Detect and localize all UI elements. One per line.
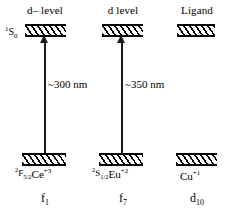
ground-state-label-eu2: 2S1/2Eu+2 [92, 167, 128, 180]
excited-level-caption-eu2: d level [84, 4, 162, 16]
excited-term-symbol-ce3: 1S0 [5, 26, 18, 37]
energy-column-eu2: d level ~350 nm 2S1/2Eu+2 f7 [84, 0, 162, 215]
ground-level-bar-eu2 [99, 153, 143, 166]
ground-state-label-cu1: Cu+1 [180, 170, 200, 182]
ground-level-bar-ce3 [22, 153, 66, 166]
ground-term-j-ce3: 5/2 [23, 173, 31, 180]
ground-level-bar-cu1 [176, 153, 217, 166]
ground-term-symbol-eu2: 2S1/2 [92, 168, 109, 178]
ion-charge-ce3: +3 [44, 167, 51, 175]
ground-state-label-ce3: 2F5/2Ce+3 [15, 167, 51, 180]
electron-configuration-eu2: f7 [84, 192, 162, 205]
energy-level-diagram: d– level 1S0 ~300 nm 2F5/2Ce+3 f1 d leve… [0, 0, 234, 215]
ion-charge-eu2: +2 [121, 167, 128, 175]
energy-column-cu1: Ligand Cu+1 d10 [158, 0, 234, 215]
transition-wavelength-label-ce3: ~300 nm [48, 78, 87, 90]
configuration-count-cu1: 10 [196, 198, 204, 207]
ligand-level-bar-cu1 [177, 24, 215, 37]
electron-configuration-cu1: d10 [158, 192, 234, 205]
ion-symbol-eu2: Eu [109, 168, 121, 180]
excited-level-caption-ce3: d– level [6, 4, 84, 16]
transition-arrow-eu2 [121, 40, 123, 153]
transition-arrow-ce3 [44, 40, 46, 153]
ion-charge-cu1: +1 [193, 169, 200, 177]
ion-symbol-cu1: Cu [180, 170, 193, 182]
excited-term-j-ce3: 0 [14, 32, 18, 40]
ground-term-symbol-ce3: 2F5/2 [15, 168, 32, 178]
configuration-count-eu2: 7 [123, 198, 127, 207]
ground-term-j-eu2: 1/2 [100, 173, 108, 180]
configuration-count-ce3: 1 [45, 198, 49, 207]
energy-column-ce3: d– level 1S0 ~300 nm 2F5/2Ce+3 f1 [6, 0, 84, 215]
ligand-level-caption-cu1: Ligand [158, 4, 234, 16]
ion-symbol-ce3: Ce [32, 168, 44, 180]
electron-configuration-ce3: f1 [6, 192, 84, 205]
